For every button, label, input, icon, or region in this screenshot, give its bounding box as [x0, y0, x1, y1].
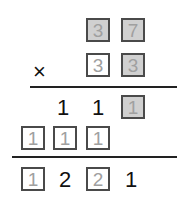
result-tens-box[interactable]: 2: [86, 167, 110, 191]
result-ones-digit: 1: [119, 169, 143, 191]
partial2-tens-box[interactable]: 1: [86, 126, 110, 150]
partial1-ones-box[interactable]: 1: [121, 95, 145, 119]
result-thousands-box[interactable]: 1: [21, 167, 45, 191]
multiplicand-tens-box[interactable]: 3: [86, 18, 110, 42]
result-hundreds-digit: 2: [53, 169, 77, 191]
multiply-operator: ×: [33, 61, 46, 83]
partial2-hundreds-box[interactable]: 1: [53, 126, 77, 150]
multiplicand-ones-box[interactable]: 7: [121, 18, 145, 42]
partial1-tens-digit: 1: [86, 97, 110, 119]
sum-rule: [12, 156, 177, 158]
multiplier-tens-box[interactable]: 3: [86, 53, 110, 77]
multiplier-ones-box[interactable]: 3: [121, 53, 145, 77]
partial1-hundreds-digit: 1: [51, 97, 75, 119]
partial2-thousands-box[interactable]: 1: [21, 126, 45, 150]
multiplication-rule: [30, 86, 177, 88]
